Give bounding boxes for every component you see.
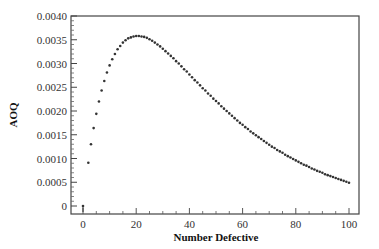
y-tick-label: 0.0030 [37, 58, 68, 70]
data-point [146, 37, 149, 40]
data-point [215, 100, 218, 103]
data-point [225, 110, 228, 113]
data-point [119, 45, 122, 48]
data-point [273, 147, 276, 150]
x-tick-label: 60 [237, 218, 249, 230]
data-point [138, 35, 141, 38]
data-point [199, 84, 202, 87]
data-point [324, 173, 327, 176]
y-tick-label: 0.0005 [37, 176, 68, 188]
data-point [87, 161, 90, 164]
data-point [231, 114, 234, 117]
data-point [316, 170, 319, 173]
data-point [159, 45, 162, 48]
data-point [308, 166, 311, 169]
x-tick-label: 100 [341, 218, 358, 230]
data-point [193, 79, 196, 82]
data-point [279, 150, 282, 153]
data-point [271, 145, 274, 148]
data-point [122, 41, 125, 44]
data-point [164, 50, 167, 53]
data-point [212, 97, 215, 100]
data-point [143, 36, 146, 39]
data-point [228, 112, 231, 115]
data-point [130, 36, 133, 39]
data-point [167, 52, 170, 55]
data-point [300, 162, 303, 165]
x-axis-title: Number Defective [173, 231, 258, 243]
data-point [337, 178, 340, 181]
data-point [169, 55, 172, 58]
data-point [177, 62, 180, 65]
data-point [127, 37, 130, 40]
data-point [305, 164, 308, 167]
data-point [332, 176, 335, 179]
data-point [236, 119, 239, 122]
data-point [106, 71, 109, 74]
data-point [321, 171, 324, 174]
data-point [249, 130, 252, 133]
plot-frame [71, 16, 359, 214]
data-point [260, 138, 263, 141]
data-point [318, 171, 321, 174]
data-point [244, 126, 247, 129]
data-point [326, 174, 329, 177]
data-points [82, 35, 351, 212]
plot-border [71, 16, 359, 214]
data-point [268, 143, 271, 146]
data-point [188, 73, 191, 76]
data-point [241, 123, 244, 126]
data-point [196, 81, 199, 84]
data-point [247, 128, 250, 131]
data-point [310, 167, 313, 170]
data-point [116, 48, 119, 51]
data-point [348, 181, 351, 184]
data-point [239, 122, 242, 125]
data-point [162, 47, 165, 50]
data-point [263, 140, 266, 143]
data-point [302, 163, 305, 166]
data-point [172, 57, 175, 60]
data-point [90, 143, 93, 146]
data-point [265, 142, 268, 145]
data-point [100, 89, 103, 92]
data-point [233, 117, 236, 120]
data-point [108, 64, 111, 67]
x-axis: 020406080100 [80, 208, 358, 230]
data-point [342, 180, 345, 183]
y-tick-label: 0 [62, 200, 68, 212]
data-point [156, 43, 159, 46]
y-tick-label: 0.0040 [37, 10, 68, 22]
data-point [191, 76, 194, 79]
data-point [223, 107, 226, 110]
data-point [276, 149, 279, 152]
data-point [220, 105, 223, 108]
y-axis-title: AOQ [7, 102, 19, 128]
x-tick-label: 0 [80, 218, 86, 230]
x-tick-label: 80 [290, 218, 302, 230]
y-tick-label: 0.0025 [37, 81, 68, 93]
data-point [204, 89, 207, 92]
data-point [207, 92, 210, 95]
data-point [98, 100, 101, 103]
data-point [255, 134, 258, 137]
aoq-chart: 00.00050.00100.00150.00200.00250.00300.0… [0, 0, 379, 249]
data-point [124, 39, 127, 42]
data-point [289, 156, 292, 159]
data-point [185, 70, 188, 73]
data-point [148, 38, 151, 41]
data-point [132, 35, 135, 38]
data-point [297, 161, 300, 164]
x-tick-label: 20 [131, 218, 143, 230]
data-point [209, 95, 212, 98]
y-tick-label: 0.0020 [37, 105, 68, 117]
data-point [334, 177, 337, 180]
data-point [154, 41, 157, 44]
data-point [257, 136, 260, 139]
data-point [281, 152, 284, 155]
data-point [114, 53, 117, 56]
data-point [313, 168, 316, 171]
data-point [151, 39, 154, 42]
data-point [345, 180, 348, 183]
data-point [180, 65, 183, 68]
